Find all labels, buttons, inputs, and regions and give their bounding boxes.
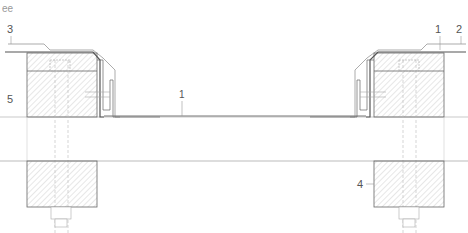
drawing-title: ee [2, 4, 13, 14]
right-lower-block [374, 161, 444, 227]
label-1-right: 1 [435, 24, 441, 35]
label-1-center: 1 [179, 90, 185, 100]
left-lower-block [27, 161, 97, 227]
label-5: 5 [7, 94, 13, 105]
label-3: 3 [7, 24, 13, 35]
section-drawing [0, 0, 468, 233]
label-2: 2 [456, 24, 462, 35]
label-4: 4 [357, 179, 363, 190]
